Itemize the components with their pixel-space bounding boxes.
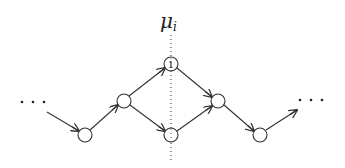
node-bottom-left — [78, 128, 92, 142]
edge-right-mid-to-bottom-right — [224, 105, 254, 131]
node-right-mid — [211, 94, 225, 108]
node-top-label: 1 — [168, 59, 174, 70]
edge-top-to-right-mid — [177, 68, 212, 97]
title-symbol: μ — [160, 9, 173, 33]
path-diagram: μi 1 — [0, 0, 345, 168]
edge-bottom-right-to-ellipsis — [266, 110, 297, 130]
edge-left-mid-to-top — [129, 68, 165, 96]
edge-left-mid-to-bottom-center — [130, 105, 165, 131]
edge-bottom-left-to-left-mid — [90, 105, 118, 130]
node-left-mid — [117, 94, 131, 108]
ellipsis-left — [21, 101, 46, 104]
edge-bottom-center-to-right-mid — [177, 106, 212, 131]
edge-ellipsis-to-bottom-left — [47, 112, 79, 131]
title-subscript: i — [173, 20, 177, 34]
node-bottom-right — [253, 128, 267, 142]
node-bottom-center — [164, 128, 178, 142]
title-label: μi — [160, 9, 177, 34]
ellipsis-right — [299, 99, 324, 102]
